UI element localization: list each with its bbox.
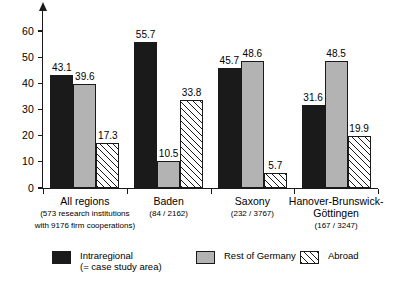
bar <box>218 68 241 188</box>
bar-value-label: 19.9 <box>345 124 374 134</box>
bar <box>264 173 287 188</box>
legend-label-line: Rest of Germany <box>224 250 296 261</box>
bar-value-label: 31.6 <box>299 93 328 103</box>
plot-area: 43.139.617.355.710.533.845.748.65.731.64… <box>0 0 395 281</box>
category-name: Hanover-Brunswick-Göttingen <box>246 196 395 219</box>
category-name-line: Hanover-Brunswick- <box>246 196 395 208</box>
bar-value-label: 48.6 <box>238 49 267 59</box>
category-sublabel: (167 / 3247) <box>246 221 395 232</box>
bar-value-label: 10.5 <box>154 149 183 159</box>
legend-swatch <box>52 251 71 264</box>
bar <box>96 143 119 188</box>
bar-value-label: 39.6 <box>70 72 99 82</box>
bar <box>134 42 157 188</box>
legend-label-line: Intraregional <box>80 250 162 261</box>
bar-value-label: 33.8 <box>177 88 206 98</box>
legend-label: Rest of Germany <box>224 250 296 261</box>
legend-swatch <box>300 251 319 264</box>
category-name-line: Göttingen <box>246 208 395 220</box>
legend-label-line: (= case study area) <box>80 261 162 272</box>
bar-value-label: 55.7 <box>131 30 160 40</box>
legend-swatch <box>196 251 215 264</box>
bar <box>157 161 180 188</box>
bar <box>302 105 325 188</box>
bar-value-label: 5.7 <box>261 161 290 171</box>
legend-item: Intraregional(= case study area) <box>52 250 162 272</box>
legend-label: Intraregional(= case study area) <box>80 250 162 272</box>
chart-legend: Intraregional(= case study area)Rest of … <box>0 246 395 276</box>
x-axis-category-label: Hanover-Brunswick-Göttingen(167 / 3247) <box>246 196 395 231</box>
bar-chart-figure: 0102030405060 43.139.617.355.710.533.845… <box>0 0 395 281</box>
legend-label: Abroad <box>328 250 359 261</box>
legend-item: Rest of Germany <box>196 250 296 264</box>
bar <box>50 75 73 188</box>
legend-item: Abroad <box>300 250 359 264</box>
bar <box>180 100 203 188</box>
bar <box>348 136 371 188</box>
bar-value-label: 48.5 <box>322 49 351 59</box>
category-sublabel: with 9176 firm cooperations) <box>0 221 175 232</box>
bar-value-label: 17.3 <box>93 131 122 141</box>
legend-label-line: Abroad <box>328 250 359 261</box>
